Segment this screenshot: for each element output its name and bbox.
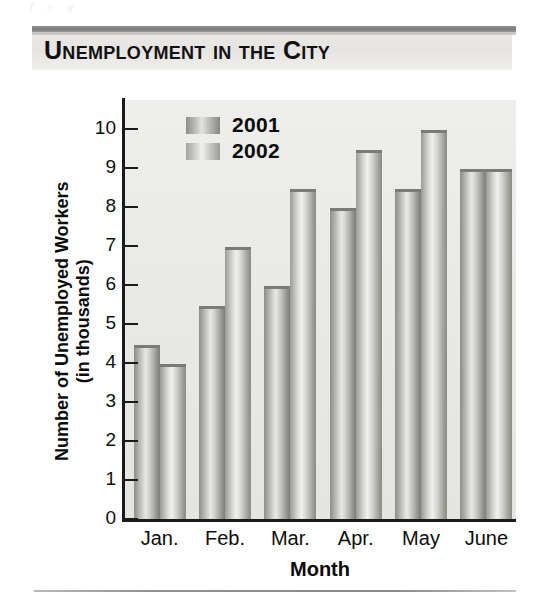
bar-cap [330,208,356,211]
bar-cap [421,130,447,133]
plot-area [124,100,516,520]
bar-2002-apr [356,150,382,521]
y-tick-6 [125,284,138,286]
y-tick-label-4: 4 [76,351,116,373]
y-tick-0 [125,518,138,520]
x-axis-title: Month [124,558,516,581]
y-axis-line [122,98,125,522]
y-tick-label-6: 6 [76,273,116,295]
y-tick-9 [125,167,138,169]
y-tick-label-10: 10 [76,117,116,139]
footer-rule [34,590,516,592]
y-axis-title-line-1: Number of Unemployed Workers [52,156,73,486]
bar-2002-june [486,169,512,520]
x-tick-label-jan: Jan. [125,527,195,550]
y-tick-label-7: 7 [76,234,116,256]
bar-cap [160,364,186,367]
bar-cap [486,169,512,172]
bar-2001-mar [264,286,290,520]
legend-item-2001: 2001 [186,112,280,138]
legend-swatch-2001-icon [186,117,220,134]
bar-cap [225,247,251,250]
x-axis-line [122,519,516,522]
legend-swatch-2002-icon [186,143,220,160]
y-tick-4 [125,362,138,364]
y-tick-label-5: 5 [76,312,116,334]
y-tick-label-2: 2 [76,429,116,451]
y-tick-3 [125,401,138,403]
chart-legend: 2001 2002 [186,112,280,164]
x-tick-label-may: May [386,527,456,550]
bar-2001-june [460,169,486,520]
bar-2002-feb [225,247,251,520]
x-tick-label-mar: Mar. [255,527,325,550]
bar-chart: Number of Unemployed Workers (in thousan… [0,0,538,603]
y-tick-label-9: 9 [76,156,116,178]
bar-2001-may [395,189,421,521]
bar-cap [264,286,290,289]
legend-item-2002: 2002 [186,138,280,164]
y-tick-7 [125,245,138,247]
bar-cap [134,345,160,348]
y-tick-label-1: 1 [76,468,116,490]
bar-cap [460,169,486,172]
y-tick-2 [125,440,138,442]
bar-2002-jan [160,364,186,520]
x-tick-label-apr: Apr. [321,527,391,550]
y-tick-label-0: 0 [76,507,116,529]
x-tick-label-feb: Feb. [190,527,260,550]
x-tick-label-june: June [451,527,521,550]
y-tick-10 [125,128,138,130]
legend-label-2001: 2001 [232,113,280,137]
bar-2001-apr [330,208,356,520]
bar-cap [290,189,316,192]
legend-label-2002: 2002 [232,139,280,163]
bar-cap [199,306,225,309]
bar-2002-mar [290,189,316,521]
bar-2001-feb [199,306,225,521]
y-tick-label-3: 3 [76,390,116,412]
bar-2002-may [421,130,447,520]
y-tick-label-8: 8 [76,195,116,217]
bar-cap [395,189,421,192]
bar-cap [356,150,382,153]
y-tick-5 [125,323,138,325]
y-tick-1 [125,479,138,481]
bar-2001-jan [134,345,160,521]
y-tick-8 [125,206,138,208]
